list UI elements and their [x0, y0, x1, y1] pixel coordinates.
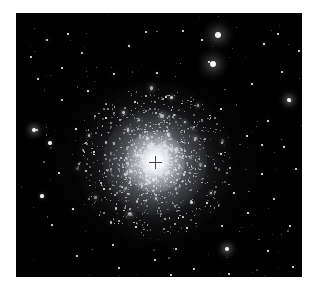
cluster-member-star: [181, 181, 183, 183]
cluster-member-star: [150, 94, 152, 96]
field-star: [40, 194, 43, 197]
cluster-member-star: [154, 162, 155, 163]
cluster-member-star: [144, 131, 145, 132]
cluster-member-star: [158, 162, 160, 164]
cluster-member-star: [157, 146, 158, 147]
cluster-member-star: [169, 217, 171, 219]
cluster-member-star: [148, 149, 149, 150]
cluster-member-star: [164, 179, 166, 181]
cluster-member-star: [166, 172, 167, 173]
cluster-member-star: [99, 170, 100, 171]
cluster-member-star: [198, 168, 199, 169]
cluster-member-star: [160, 159, 162, 161]
cluster-member-star: [136, 127, 137, 128]
cluster-member-star: [153, 155, 155, 157]
cluster-member-star: [105, 158, 107, 160]
cluster-member-star: [153, 160, 155, 162]
cluster-member-star: [121, 192, 122, 193]
cluster-member-star: [196, 156, 197, 157]
cluster-member-star: [126, 147, 128, 149]
cluster-member-star: [147, 161, 148, 162]
cluster-member-star: [168, 146, 169, 147]
cluster-member-star: [155, 197, 158, 200]
field-star: [206, 202, 208, 204]
cluster-member-star: [154, 163, 156, 165]
cluster-member-star: [144, 129, 145, 130]
cluster-member-star: [150, 167, 152, 169]
cluster-member-star: [130, 183, 131, 184]
cluster-member-star: [150, 122, 151, 123]
cluster-member-star: [118, 200, 120, 202]
cluster-member-star: [118, 223, 119, 224]
cluster-member-star: [152, 158, 154, 160]
cluster-member-star: [79, 162, 80, 163]
cluster-member-star: [165, 167, 166, 168]
cluster-member-star: [154, 193, 155, 194]
field-star: [248, 191, 249, 192]
cluster-member-star: [129, 177, 131, 179]
cluster-member-star: [172, 201, 174, 203]
cluster-member-star: [158, 167, 160, 169]
cluster-member-star: [93, 153, 94, 154]
field-star: [178, 231, 179, 232]
cluster-member-star: [144, 169, 146, 171]
cluster-member-star: [154, 161, 155, 162]
cluster-member-star: [189, 172, 191, 174]
cluster-member-star: [155, 161, 156, 162]
cluster-member-star: [199, 159, 201, 161]
cluster-member-star: [208, 200, 209, 201]
cluster-member-star: [155, 160, 156, 161]
cluster-member-star: [170, 157, 172, 159]
field-star: [182, 30, 184, 32]
cluster-member-star: [109, 165, 110, 166]
cluster-member-star: [184, 140, 185, 141]
cluster-member-star: [178, 167, 179, 168]
field-star: [281, 71, 283, 73]
cluster-member-star: [98, 113, 99, 114]
cluster-member-star: [192, 167, 194, 169]
cluster-member-star: [208, 156, 209, 157]
cluster-member-star: [156, 162, 157, 163]
cluster-member-star: [154, 164, 155, 165]
cluster-member-star: [159, 151, 160, 152]
cluster-member-star: [151, 164, 152, 165]
cluster-member-star: [160, 161, 161, 162]
cluster-member-star: [144, 167, 145, 168]
cluster-member-star: [155, 173, 156, 174]
cluster-member-star: [187, 164, 188, 165]
cluster-member-star: [153, 162, 155, 164]
cluster-member-star: [128, 213, 129, 214]
field-star: [84, 204, 85, 205]
cluster-member-star: [133, 183, 134, 184]
cluster-member-star: [175, 151, 176, 152]
cluster-member-star: [140, 163, 141, 164]
field-star: [156, 31, 157, 32]
cluster-member-star: [151, 147, 152, 148]
cluster-member-star: [131, 214, 132, 215]
cluster-member-star: [154, 163, 155, 164]
field-star: [103, 188, 105, 190]
field-star: [76, 255, 77, 256]
cluster-member-star: [155, 148, 156, 149]
cluster-member-star: [138, 151, 139, 152]
cluster-member-star: [154, 161, 155, 162]
cluster-member-star: [144, 135, 145, 136]
cluster-member-star: [121, 176, 123, 178]
cluster-member-star: [140, 164, 141, 165]
cluster-member-star: [153, 187, 154, 188]
cluster-member-star: [160, 164, 162, 166]
field-star: [50, 180, 51, 181]
cluster-member-star: [145, 175, 147, 177]
cluster-member-star: [171, 172, 173, 174]
cluster-member-star: [150, 160, 151, 161]
cluster-member-star: [144, 203, 145, 204]
cluster-member-star: [105, 141, 107, 143]
cluster-member-star: [172, 128, 173, 129]
field-star: [86, 71, 87, 72]
cluster-member-star: [161, 136, 162, 137]
cluster-member-star: [156, 167, 157, 168]
cluster-member-star: [147, 165, 148, 166]
cluster-member-star: [181, 132, 183, 134]
cluster-member-star: [153, 162, 154, 163]
cluster-member-star: [112, 163, 113, 164]
